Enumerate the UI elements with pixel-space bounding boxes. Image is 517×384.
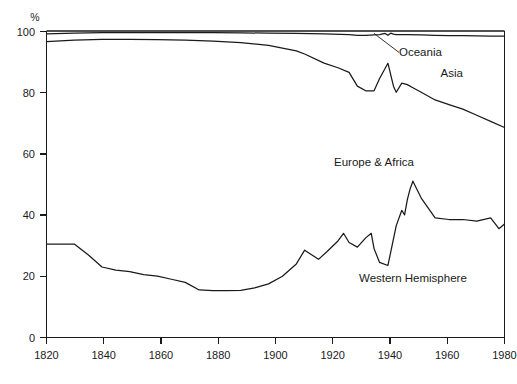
series-label-oceania: Oceania bbox=[399, 46, 442, 58]
x-tick-marks bbox=[47, 338, 505, 345]
series-lines-group bbox=[47, 31, 505, 291]
x-tick-label-1820: 1820 bbox=[34, 349, 58, 361]
series-label-western-hemisphere: Western Hemisphere bbox=[359, 272, 467, 284]
y-tick-label-20: 20 bbox=[23, 270, 35, 282]
series-line-asia bbox=[47, 33, 505, 37]
y-tick-label-0: 0 bbox=[29, 332, 35, 344]
y-tick-label-40: 40 bbox=[23, 209, 35, 221]
percentage-share-line-chart: 100 80 60 40 20 0 % 1820 1840 1860 1880 … bbox=[0, 0, 517, 384]
x-tick-label-1960: 1960 bbox=[435, 349, 459, 361]
x-tick-label-1860: 1860 bbox=[149, 349, 173, 361]
y-tick-label-80: 80 bbox=[23, 87, 35, 99]
series-label-asia: Asia bbox=[441, 67, 464, 79]
x-tick-label-1900: 1900 bbox=[263, 349, 287, 361]
x-tick-label-1940: 1940 bbox=[378, 349, 402, 361]
y-tick-label-60: 60 bbox=[23, 148, 35, 160]
y-tick-marks bbox=[40, 32, 47, 338]
oceania-leader-line bbox=[374, 33, 399, 52]
x-tick-label-1880: 1880 bbox=[206, 349, 230, 361]
x-tick-label-1920: 1920 bbox=[321, 349, 345, 361]
x-tick-label-1980: 1980 bbox=[492, 349, 516, 361]
x-tick-label-1840: 1840 bbox=[92, 349, 116, 361]
y-tick-label-100: 100 bbox=[17, 26, 35, 38]
y-axis-unit-label: % bbox=[30, 11, 39, 23]
chart-container: 100 80 60 40 20 0 % 1820 1840 1860 1880 … bbox=[0, 0, 517, 384]
series-label-europe-africa: Europe & Africa bbox=[334, 156, 415, 168]
